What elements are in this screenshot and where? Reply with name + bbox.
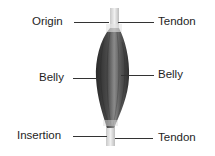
leader-line-tendon-top xyxy=(118,22,154,23)
label-origin: Origin xyxy=(32,16,63,28)
label-tendon-top: Tendon xyxy=(158,16,196,28)
leader-line-insertion xyxy=(73,136,107,137)
label-insertion: Insertion xyxy=(17,130,61,142)
label-tendon-bottom: Tendon xyxy=(158,132,196,144)
leader-line-origin xyxy=(74,22,109,23)
label-belly-left: Belly xyxy=(39,72,64,84)
leader-line-belly-left xyxy=(73,78,100,79)
leader-line-tendon-bottom xyxy=(115,138,153,139)
leader-line-belly-right xyxy=(121,75,154,76)
label-belly-right: Belly xyxy=(158,69,183,81)
